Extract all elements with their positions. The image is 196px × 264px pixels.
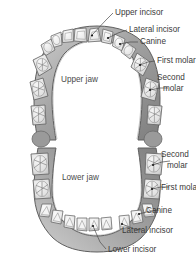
- dental-diagram-canvas: Upper incisor Lateral incisor Canine Fir…: [0, 0, 196, 264]
- point-lateral-incisor: [107, 37, 109, 39]
- point-lower-first-molar: [151, 188, 153, 190]
- label-first-molar: First molar: [157, 56, 196, 65]
- label-upper-jaw: Upper jaw: [61, 75, 98, 84]
- upper-tooth-lateral-incisor-right: [63, 29, 74, 43]
- lower-tooth-canine-right: [51, 210, 63, 224]
- lower-tooth-second-molar-right: [31, 153, 49, 175]
- lower-tooth-canine-left: [131, 210, 143, 224]
- label-lateral-incisor: Lateral incisor: [129, 25, 180, 34]
- label-lower-jaw: Lower jaw: [62, 173, 99, 182]
- lower-tooth-central-incisor-extra: [101, 217, 112, 230]
- label-lower-second-molar-line1: Second: [161, 150, 189, 159]
- point-upper-incisor: [91, 34, 93, 36]
- label-lower-incisor: Lower incisor: [108, 245, 157, 254]
- label-second-molar-line1: Second: [157, 73, 185, 82]
- point-canine: [119, 43, 121, 45]
- lower-tooth-first-molar-right: [33, 179, 51, 199]
- label-second-molar-line2: molar: [163, 84, 184, 93]
- upper-tooth-third-molar-right: [31, 105, 46, 125]
- upper-tooth-central-incisor-right: [74, 28, 87, 42]
- point-lower-incisor: [92, 225, 94, 227]
- point-lower-lateral-incisor: [121, 223, 123, 225]
- label-upper-incisor: Upper incisor: [115, 8, 164, 17]
- label-lower-first-molar: First molar: [161, 183, 196, 192]
- label-lower-canine: Canine: [146, 206, 172, 215]
- lower-tooth-third-molar-right: [32, 131, 50, 147]
- lower-tooth-central-incisor-right: [77, 218, 87, 231]
- label-canine: Canine: [140, 37, 166, 46]
- point-lower-canine: [138, 213, 140, 215]
- lower-jaw-gum-arch: [34, 148, 160, 252]
- point-first-molar: [139, 64, 141, 66]
- label-lower-lateral-incisor: Lateral incisor: [122, 226, 173, 235]
- dental-anatomy-figure: Upper incisor Lateral incisor Canine Fir…: [0, 0, 196, 264]
- upper-tooth-third-molar-left: [147, 105, 162, 125]
- point-second-molar: [149, 89, 151, 91]
- lower-tooth-lateral-incisor-right: [64, 215, 75, 229]
- point-lower-second-molar: [152, 164, 154, 166]
- lower-tooth-third-molar-left: [144, 131, 162, 147]
- label-lower-second-molar-line2: molar: [167, 161, 188, 170]
